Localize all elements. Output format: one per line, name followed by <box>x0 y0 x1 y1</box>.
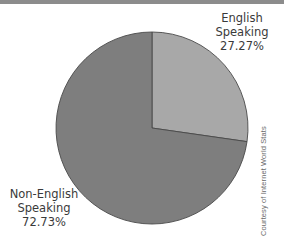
label-english-line1: English <box>212 11 272 25</box>
label-english-value: 27.27% <box>212 39 272 53</box>
label-non-english-speaking: Non-English Speaking 72.73% <box>4 187 84 229</box>
label-english-speaking: English Speaking 27.27% <box>212 11 272 53</box>
label-non-english-value: 72.73% <box>4 215 84 229</box>
pie-slices <box>56 32 248 224</box>
source-credit: Courtesy of Internet World Stats <box>259 126 268 236</box>
label-non-english-line2: Speaking <box>4 201 84 215</box>
label-non-english-line1: Non-English <box>4 187 84 201</box>
label-english-line2: Speaking <box>212 25 272 39</box>
